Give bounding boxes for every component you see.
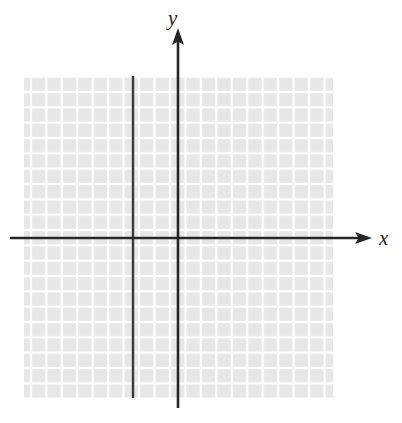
y-axis-label: y — [168, 8, 177, 29]
coordinate-plane-figure: y x — [0, 0, 402, 423]
plot-canvas — [0, 0, 402, 423]
x-axis-label: x — [379, 228, 388, 249]
